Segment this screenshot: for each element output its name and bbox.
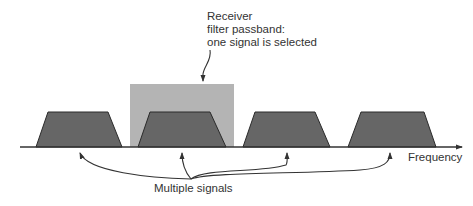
signal-1-trapezoid xyxy=(36,112,122,147)
receiver-label-line-2: filter passband: xyxy=(207,23,285,36)
signal-3-trapezoid xyxy=(243,112,330,147)
multiple-signals-arrows xyxy=(80,153,390,179)
signal-4-trapezoid xyxy=(348,112,436,147)
frequency-axis-label: Frequency xyxy=(408,151,462,164)
receiver-label-line-3: one signal is selected xyxy=(207,36,317,49)
signal-2-trapezoid xyxy=(138,112,226,147)
multiple-signals-label: Multiple signals xyxy=(154,182,233,195)
receiver-pointer-arrow xyxy=(203,50,210,81)
receiver-label-line-1: Receiver xyxy=(207,10,252,23)
